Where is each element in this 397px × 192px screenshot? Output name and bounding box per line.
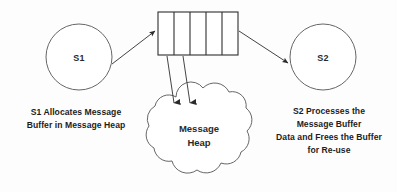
diagram-svg: S1 S2 Message Heap S1 All: [0, 0, 397, 192]
heap-label-line2: Heap: [187, 137, 210, 148]
caption-left-line1: S1 Allocates Message: [31, 107, 122, 117]
sender-label: S1: [73, 53, 84, 63]
node-receiver-s2[interactable]: S2: [290, 24, 356, 90]
message-buffer[interactable]: [158, 12, 238, 55]
node-message-heap[interactable]: Message Heap: [146, 82, 252, 173]
caption-right-line4: for Re-use: [308, 145, 351, 155]
caption-left-line2: Buffer in Message Heap: [27, 120, 126, 130]
caption-left: S1 Allocates Message Buffer in Message H…: [27, 107, 126, 130]
connector-s1-to-buffer: [112, 31, 155, 64]
connector-buffer-to-s2: [239, 31, 288, 63]
caption-right-line3: Data and Frees the Buffer: [276, 132, 382, 142]
buffer-outline: [158, 12, 238, 55]
diagram-canvas: S1 S2 Message Heap S1 All: [0, 0, 397, 192]
receiver-label: S2: [317, 53, 328, 63]
caption-right-line1: S2 Processes the: [293, 106, 365, 116]
node-sender-s1[interactable]: S1: [46, 24, 112, 90]
caption-right-line2: Message Buffer: [297, 119, 362, 129]
heap-label-line1: Message: [179, 123, 219, 134]
caption-right: S2 Processes the Message Buffer Data and…: [276, 106, 382, 155]
